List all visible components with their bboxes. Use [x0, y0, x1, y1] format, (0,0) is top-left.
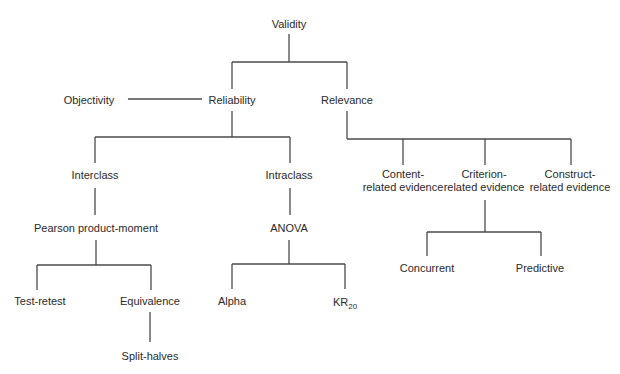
node-anova: ANOVA [270, 222, 308, 235]
criterion-line2: related evidence [444, 181, 525, 194]
node-alpha: Alpha [218, 295, 246, 308]
kr20-label: KR [333, 296, 348, 308]
node-interclass: Interclass [71, 169, 118, 182]
node-relevance: Relevance [321, 94, 373, 107]
node-concurrent: Concurrent [400, 262, 454, 275]
connector-lines [0, 0, 620, 374]
node-kr20: KR20 [333, 296, 357, 309]
content-line2: related evidence [363, 181, 444, 194]
node-objectivity: Objectivity [64, 94, 115, 107]
node-test-retest: Test-retest [14, 295, 65, 308]
validity-tree-diagram: Validity Objectivity Reliability Relevan… [0, 0, 620, 374]
content-line1: Content- [363, 168, 444, 181]
node-construct-related-evidence: Construct- related evidence [530, 168, 611, 194]
node-predictive: Predictive [516, 262, 564, 275]
node-validity: Validity [272, 18, 307, 31]
node-content-related-evidence: Content- related evidence [363, 168, 444, 194]
kr20-subscript: 20 [348, 302, 357, 311]
node-split-halves: Split-halves [122, 350, 179, 363]
construct-line1: Construct- [530, 168, 611, 181]
node-equivalence: Equivalence [120, 295, 180, 308]
criterion-line1: Criterion- [444, 168, 525, 181]
construct-line2: related evidence [530, 181, 611, 194]
node-pearson-product-moment: Pearson product-moment [34, 222, 158, 235]
node-criterion-related-evidence: Criterion- related evidence [444, 168, 525, 194]
node-intraclass: Intraclass [265, 169, 312, 182]
node-reliability: Reliability [208, 94, 255, 107]
